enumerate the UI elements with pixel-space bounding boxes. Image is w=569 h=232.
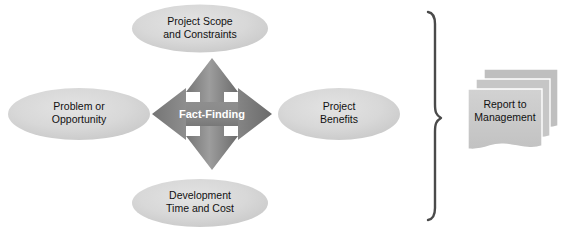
center-label: Fact-Finding <box>179 108 245 120</box>
node-project-scope-label-line2: and Constraints <box>163 28 237 40</box>
node-problem-opportunity[interactable]: Problem or Opportunity <box>8 88 150 140</box>
node-project-benefits-label-line1: Project <box>323 100 356 112</box>
node-development-time-cost[interactable]: Development Time and Cost <box>132 179 268 227</box>
report-label-line1: Report to <box>483 98 526 110</box>
node-problem-opportunity-label-line2: Opportunity <box>52 113 107 125</box>
diagram-canvas: Project Scope and Constraints Problem or… <box>0 0 569 232</box>
curly-brace-path <box>428 12 441 220</box>
node-problem-opportunity-label-line1: Problem or <box>53 100 105 112</box>
node-development-time-cost-label-line1: Development <box>169 189 231 201</box>
node-project-scope-label-line1: Project Scope <box>167 15 233 27</box>
report-to-management-document-stack[interactable]: Report to Management <box>468 69 558 149</box>
four-way-arrow-icon[interactable]: Fact-Finding <box>152 58 272 170</box>
node-project-benefits[interactable]: Project Benefits <box>278 88 400 140</box>
node-development-time-cost-label-line2: Time and Cost <box>166 202 234 214</box>
curly-brace-icon <box>428 12 441 220</box>
report-label-line2: Management <box>474 111 535 123</box>
fact-finding-diagram: Project Scope and Constraints Problem or… <box>0 0 569 232</box>
node-project-benefits-label-line2: Benefits <box>320 113 358 125</box>
node-project-scope[interactable]: Project Scope and Constraints <box>132 5 268 53</box>
